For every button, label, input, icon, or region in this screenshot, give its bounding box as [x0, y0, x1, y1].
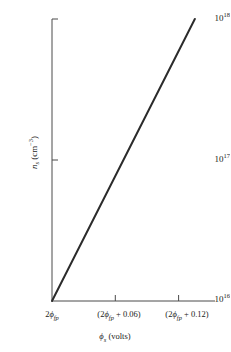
y-axis-title-symbol: n: [29, 165, 39, 170]
y-tick-label-1e18: 1018: [182, 14, 230, 23]
y-axis-title-unit-exponent: −3: [27, 139, 34, 146]
y-axis-title-unit-close: ): [29, 136, 39, 139]
y-tick-exponent: 18: [224, 11, 231, 18]
y-axis-title: ns (cm−3): [30, 113, 39, 193]
data-line-series-0: [52, 19, 195, 301]
y-tick-label-1e16: 1016: [182, 295, 230, 304]
y-tick-mantissa: 10: [215, 13, 224, 23]
x-tick-subscript: fp: [54, 314, 59, 321]
x-axis-title: ϕs (volts): [0, 332, 230, 341]
x-tick-suffix: + 0.12): [182, 309, 209, 319]
y-tick-mantissa: 10: [215, 294, 224, 304]
y-tick-label-1e17: 1017: [182, 155, 230, 164]
x-tick-suffix: + 0.06): [114, 309, 141, 319]
x-axis-title-unit: (volts): [106, 331, 130, 341]
y-tick-mantissa: 10: [215, 154, 224, 164]
y-tick-exponent: 17: [224, 152, 231, 159]
x-tick-label-2phifp: 2ϕfp: [30, 310, 74, 319]
x-tick-label-2phifp-plus-0-12: (2ϕfp + 0.12): [147, 310, 227, 319]
y-tick-exponent: 16: [224, 292, 231, 299]
y-axis-title-unit-open: (cm: [29, 146, 39, 162]
figure-container: 1018 1017 1016 ns (cm−3) 2ϕfp (2ϕfp + 0.…: [0, 0, 230, 352]
